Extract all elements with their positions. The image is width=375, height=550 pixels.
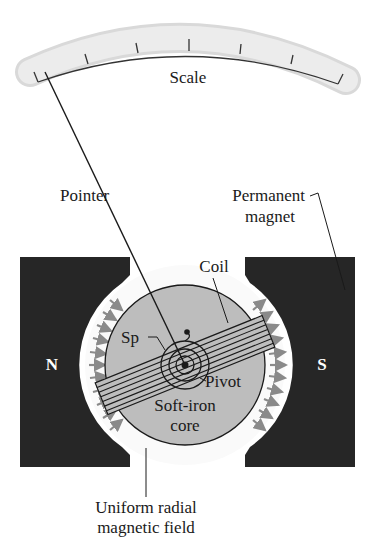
north-pole-label: N bbox=[46, 355, 59, 374]
spring-anchor bbox=[184, 329, 190, 335]
field-label-1: Uniform radial bbox=[95, 498, 197, 517]
scale-label: Scale bbox=[170, 68, 207, 87]
field-label-2: magnetic field bbox=[97, 518, 195, 537]
pivot-label: Pivot bbox=[205, 372, 241, 391]
pointer-label: Pointer bbox=[60, 186, 109, 205]
core-label-1: Soft-iron bbox=[154, 396, 216, 415]
spring-label: Sp bbox=[121, 328, 139, 347]
core-label-2: core bbox=[170, 416, 199, 435]
south-pole-label: S bbox=[317, 355, 326, 374]
coil-label: Coil bbox=[199, 257, 229, 276]
permanent-magnet-label-1: Permanent bbox=[232, 186, 305, 205]
permanent-magnet-label-2: magnet bbox=[245, 207, 295, 226]
galvanometer-diagram: Scale N S bbox=[0, 0, 375, 550]
